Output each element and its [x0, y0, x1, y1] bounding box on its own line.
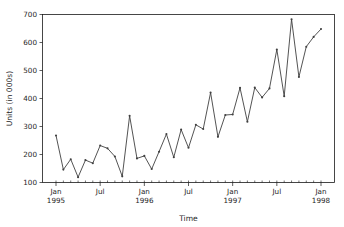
data-point-marker [99, 144, 101, 146]
data-point-marker [187, 147, 189, 149]
data-point-marker [180, 129, 182, 131]
x-tick-label: Jul [95, 187, 105, 196]
data-point-marker [121, 175, 123, 177]
x-tick-label: Jul [183, 187, 193, 196]
data-point-marker [268, 87, 270, 89]
data-point-marker [210, 92, 212, 94]
y-tick-label: 300 [23, 122, 37, 131]
data-point-marker [70, 158, 72, 160]
data-point-marker [298, 76, 300, 78]
x-tick-label-year: 1997 [224, 196, 242, 205]
data-point-marker [202, 128, 204, 130]
data-point-marker [313, 36, 315, 38]
data-point-marker [254, 87, 256, 89]
data-point-marker [136, 157, 138, 159]
data-point-marker [261, 96, 263, 98]
data-point-marker [92, 162, 94, 164]
line-chart-plot: 100200300400500600700Jan1995JulJan1996Ju… [0, 0, 344, 227]
y-tick-label: 100 [23, 178, 37, 187]
x-tick-label-year: 1996 [135, 196, 154, 205]
data-point-marker [84, 159, 86, 161]
data-point-marker [77, 176, 79, 178]
data-point-marker [232, 113, 234, 115]
chart-figure: 100200300400500600700Jan1995JulJan1996Ju… [0, 0, 344, 227]
y-tick-label: 200 [23, 150, 37, 159]
data-series-line [56, 19, 321, 177]
data-point-marker [195, 124, 197, 126]
data-point-marker [114, 155, 116, 157]
y-axis-title: Units (in 000s) [5, 71, 14, 127]
data-point-marker [291, 18, 293, 20]
data-point-marker [173, 156, 175, 158]
y-tick-label: 700 [23, 10, 37, 19]
y-tick-label: 500 [23, 66, 37, 75]
data-point-marker [217, 136, 219, 138]
data-point-marker [283, 95, 285, 97]
data-point-marker [151, 168, 153, 170]
data-point-marker [276, 48, 278, 50]
data-point-marker [143, 155, 145, 157]
x-tick-label: Jul [271, 187, 281, 196]
data-point-marker [305, 46, 307, 48]
plot-frame [43, 15, 335, 183]
data-point-marker [246, 121, 248, 123]
data-point-marker [239, 87, 241, 89]
data-point-marker [158, 151, 160, 153]
x-tick-label-year: 1995 [47, 196, 65, 205]
data-point-marker [165, 133, 167, 135]
y-tick-label: 600 [23, 38, 37, 47]
data-point-marker [129, 115, 131, 117]
data-point-marker [55, 134, 57, 136]
data-point-marker [62, 169, 64, 171]
x-tick-label-year: 1998 [312, 196, 331, 205]
data-point-marker [224, 114, 226, 116]
x-axis-title: Time [178, 214, 198, 223]
data-point-marker [320, 28, 322, 30]
data-point-marker [106, 147, 108, 149]
y-tick-label: 400 [23, 94, 37, 103]
